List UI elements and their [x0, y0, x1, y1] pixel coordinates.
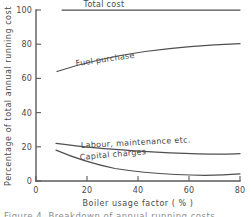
x-tick-label-60: 60 — [184, 186, 195, 195]
y-tick-label-40: 40 — [21, 109, 32, 118]
figure-caption: Figure 4. Breakdown of annual running co… — [4, 211, 215, 217]
x-tick-label-0: 0 — [33, 186, 38, 195]
x-tick-label-20: 20 — [82, 186, 93, 195]
y-tick-label-20: 20 — [21, 143, 32, 152]
y-tick-label-0: 0 — [27, 177, 32, 186]
x-axis-title: Boiler usage factor ( % ) — [83, 199, 194, 208]
x-tick-label-40: 40 — [133, 186, 144, 195]
y-tick-label-100: 100 — [16, 6, 32, 15]
chart-background — [0, 0, 251, 217]
y-axis-title: Percentage of total annual running cost — [4, 6, 13, 186]
x-tick-label-80: 80 — [235, 186, 246, 195]
y-tick-label-80: 80 — [21, 40, 32, 49]
series-label-total-cost: Total cost — [83, 0, 125, 9]
figure-container: 100 80 60 40 20 0 0 20 40 60 80 Boiler u… — [0, 0, 251, 217]
line-chart: 100 80 60 40 20 0 0 20 40 60 80 Boiler u… — [0, 0, 251, 217]
y-tick-label-60: 60 — [21, 74, 32, 83]
